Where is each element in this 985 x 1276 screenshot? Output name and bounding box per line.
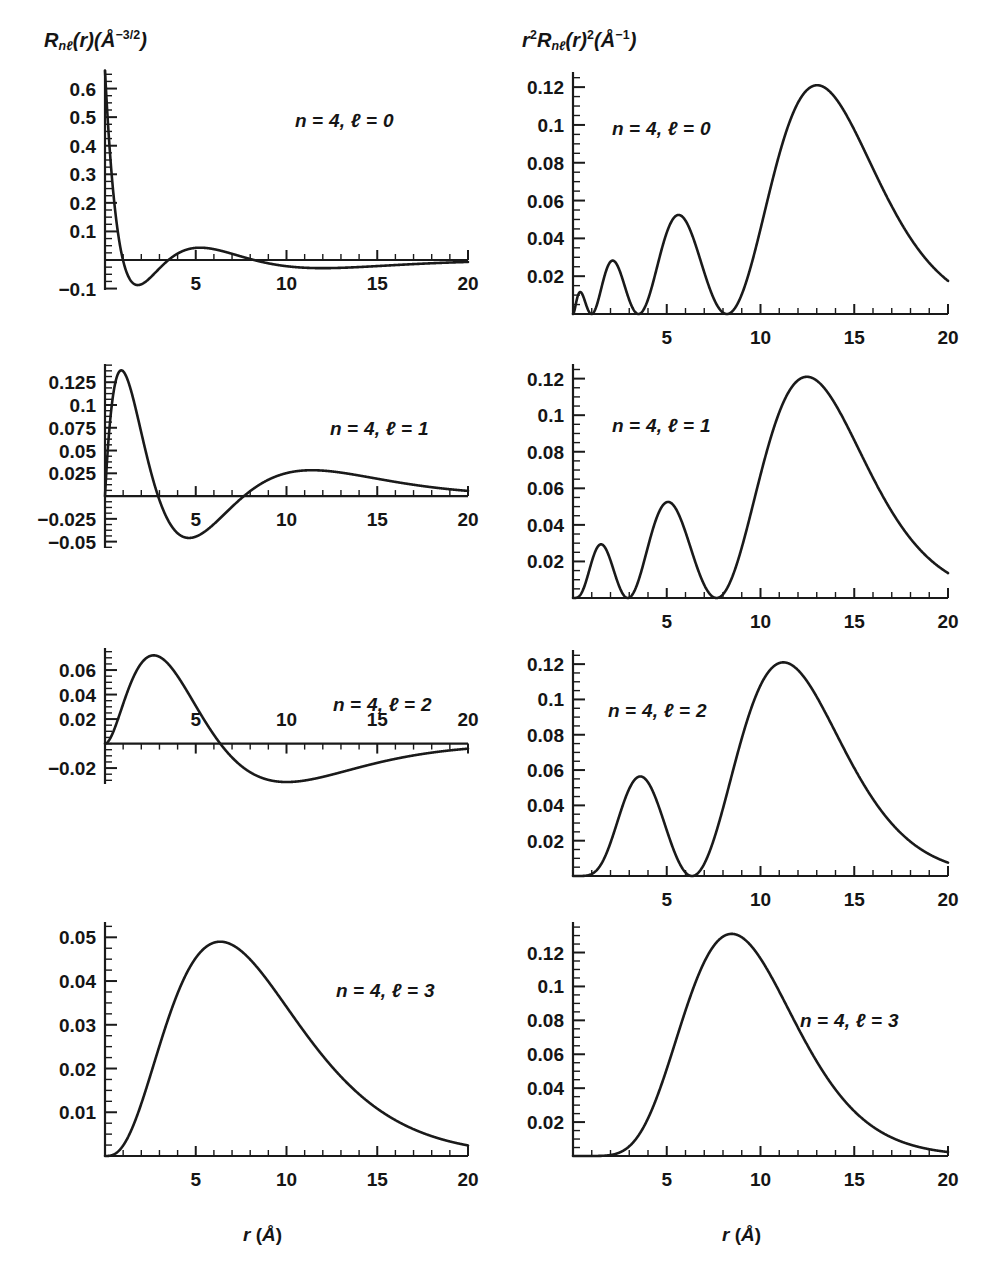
x-tick-label: 10 <box>750 889 771 910</box>
x-tick-label: 5 <box>190 1169 201 1190</box>
annotation-n4-l2-left: n = 4, ℓ = 2 <box>333 694 432 716</box>
y-tick-label: 0.1 <box>70 395 97 416</box>
x-tick-label: 20 <box>937 611 958 632</box>
y-tick-label: 0.02 <box>527 1112 564 1133</box>
y-tick-label: 0.06 <box>527 1044 564 1065</box>
panel-radial-wavefunction-n4-l3: 51015200.010.020.030.040.05 <box>0 908 478 1198</box>
y-tick-label: 0.02 <box>527 551 564 572</box>
y-tick-label: 0.04 <box>527 795 564 816</box>
x-axis-title-left-column: r (Å) <box>243 1224 282 1246</box>
x-tick-label: 10 <box>750 611 771 632</box>
y-tick-label: 0.08 <box>527 725 564 746</box>
x-tick-label: 20 <box>937 889 958 910</box>
y-tick-label: 0.1 <box>538 115 565 136</box>
x-tick-label: 10 <box>276 273 297 294</box>
y-tick-label: 0.12 <box>527 943 564 964</box>
y-tick-label: 0.125 <box>48 372 96 393</box>
y-tick-label: 0.1 <box>538 405 565 426</box>
y-tick-label: 0.02 <box>59 1059 96 1080</box>
plot-R41: 5101520−0.05−0.0250.0250.050.0750.10.125 <box>0 350 478 636</box>
plot-P40: 51015200.020.040.060.080.10.12 <box>478 62 983 350</box>
y-tick-label: 0.3 <box>70 164 96 185</box>
x-tick-label: 20 <box>937 327 958 348</box>
annotation-n4-l1-right: n = 4, ℓ = 1 <box>612 415 711 437</box>
y-tick-label: −0.02 <box>48 758 96 779</box>
y-tick-label: 0.06 <box>527 478 564 499</box>
x-tick-label: 10 <box>750 1169 771 1190</box>
annotation-n4-l3-left: n = 4, ℓ = 3 <box>336 980 435 1002</box>
y-tick-label: 0.04 <box>527 228 564 249</box>
x-tick-label: 5 <box>661 327 672 348</box>
x-tick-label: 15 <box>844 1169 866 1190</box>
y-tick-label: 0.04 <box>59 685 96 706</box>
y-tick-label: 0.04 <box>527 1078 564 1099</box>
y-tick-label: 0.04 <box>59 971 96 992</box>
plot-R42: 5101520−0.020.020.040.06 <box>0 636 478 908</box>
y-tick-label: 0.12 <box>527 654 564 675</box>
panel-radial-probability-n4-l0: 51015200.020.040.060.080.10.12 <box>478 62 983 350</box>
panel-radial-probability-n4-l2: 51015200.020.040.060.080.10.12 <box>478 636 983 908</box>
x-tick-label: 5 <box>190 273 201 294</box>
plot-R40: 5101520−0.10.10.20.30.40.50.6 <box>0 62 478 350</box>
x-tick-label: 15 <box>844 611 866 632</box>
y-tick-label: 0.05 <box>59 441 96 462</box>
x-tick-label: 20 <box>457 273 478 294</box>
y-tick-label: 0.03 <box>59 1015 96 1036</box>
y-tick-label: 0.1 <box>70 221 97 242</box>
annotation-n4-l3-right: n = 4, ℓ = 3 <box>800 1010 899 1032</box>
x-tick-label: 20 <box>457 509 478 530</box>
y-tick-label: 0.02 <box>527 831 564 852</box>
x-tick-label: 5 <box>661 1169 672 1190</box>
y-tick-label: −0.05 <box>48 532 97 553</box>
annotation-n4-l2-right: n = 4, ℓ = 2 <box>608 700 707 722</box>
y-axis-label-right-column: r2Rnℓ(r)2(Å−1) <box>522 28 636 53</box>
y-tick-label: 0.08 <box>527 153 564 174</box>
y-tick-label: 0.12 <box>527 369 564 390</box>
x-tick-label: 10 <box>750 327 771 348</box>
panel-radial-wavefunction-n4-l1: 5101520−0.05−0.0250.0250.050.0750.10.125 <box>0 350 478 636</box>
x-tick-label: 5 <box>661 889 672 910</box>
y-tick-label: 0.1 <box>538 976 565 997</box>
plot-R43: 51015200.010.020.030.040.05 <box>0 908 478 1198</box>
data-curve <box>573 934 948 1156</box>
annotation-n4-l0-left: n = 4, ℓ = 0 <box>295 110 394 132</box>
x-tick-label: 15 <box>367 1169 389 1190</box>
y-tick-label: −0.025 <box>37 509 96 530</box>
annotation-n4-l1-left: n = 4, ℓ = 1 <box>330 418 429 440</box>
y-tick-label: −0.1 <box>58 279 96 300</box>
x-tick-label: 20 <box>937 1169 958 1190</box>
y-tick-label: 0.02 <box>59 709 96 730</box>
y-tick-label: 0.06 <box>59 660 96 681</box>
x-tick-label: 10 <box>276 509 297 530</box>
y-tick-label: 0.01 <box>59 1102 96 1123</box>
data-curve <box>105 942 468 1156</box>
y-tick-label: 0.075 <box>48 418 96 439</box>
x-tick-label: 5 <box>190 509 201 530</box>
y-tick-label: 0.08 <box>527 1010 564 1031</box>
panel-radial-wavefunction-n4-l2: 5101520−0.020.020.040.06 <box>0 636 478 908</box>
plot-P42: 51015200.020.040.060.080.10.12 <box>478 636 983 908</box>
panel-radial-probability-n4-l3: 51015200.020.040.060.080.10.12 <box>478 908 983 1198</box>
y-tick-label: 0.06 <box>527 760 564 781</box>
y-axis-label-left-column: Rnℓ(r)(Å−3/2) <box>44 28 147 53</box>
x-tick-label: 20 <box>457 1169 478 1190</box>
y-tick-label: 0.1 <box>538 689 565 710</box>
annotation-n4-l0-right: n = 4, ℓ = 0 <box>612 118 711 140</box>
y-tick-label: 0.02 <box>527 266 564 287</box>
y-tick-label: 0.04 <box>527 515 564 536</box>
y-tick-label: 0.05 <box>59 927 96 948</box>
plot-P41: 51015200.020.040.060.080.10.12 <box>478 350 983 636</box>
panel-radial-probability-n4-l1: 51015200.020.040.060.080.10.12 <box>478 350 983 636</box>
x-tick-label: 20 <box>457 709 478 730</box>
x-tick-label: 15 <box>367 273 389 294</box>
x-tick-label: 10 <box>276 1169 297 1190</box>
data-curve <box>573 662 948 876</box>
data-curve <box>573 377 948 598</box>
y-tick-label: 0.06 <box>527 191 564 212</box>
x-tick-label: 15 <box>844 889 866 910</box>
y-tick-label: 0.12 <box>527 77 564 98</box>
x-tick-label: 10 <box>276 709 297 730</box>
y-tick-label: 0.6 <box>70 79 96 100</box>
y-tick-label: 0.5 <box>70 107 97 128</box>
figure-canvas: Rnℓ(r)(Å−3/2) r2Rnℓ(r)2(Å−1) 5101520−0.1… <box>0 0 985 1276</box>
